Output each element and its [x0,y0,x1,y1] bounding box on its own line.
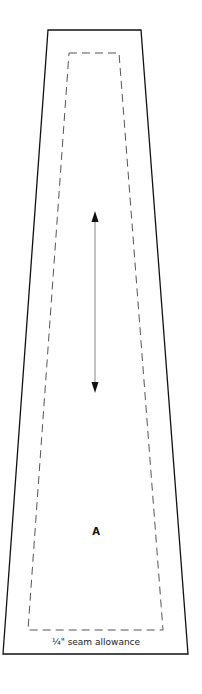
grainline-arrow-icon [92,211,99,393]
seam-allowance-label: ¼" seam allowance [0,637,192,647]
pattern-piece-drawing [0,0,202,694]
piece-label: A [89,526,103,537]
